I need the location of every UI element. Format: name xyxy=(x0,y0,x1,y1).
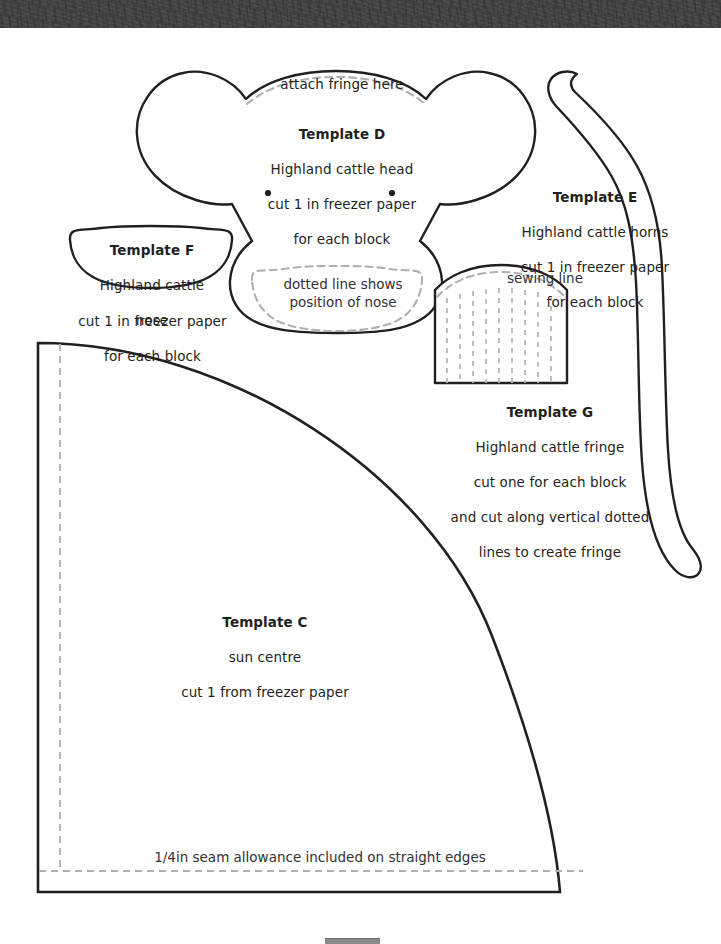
template-f-title: Template F xyxy=(72,242,232,260)
template-f-outside-line-2: for each block xyxy=(55,348,250,366)
template-sheet: attach fringe here Template D Highland c… xyxy=(0,0,721,944)
template-g-line-2: cut one for each block xyxy=(440,474,660,492)
template-e-caption: Template E Highland cattle horns cut 1 i… xyxy=(500,171,690,329)
template-e-line-3: for each block xyxy=(500,294,690,312)
sewing-line-label: sewing line xyxy=(470,270,620,288)
nose-position-note: dotted line shows position of nose xyxy=(258,276,428,311)
template-e-title: Template E xyxy=(500,189,690,207)
template-d-line-2: cut 1 in freezer paper xyxy=(228,196,456,214)
page-footer-bar xyxy=(325,938,380,944)
template-f-outside-line-1: cut 1 in freezer paper xyxy=(55,313,250,331)
template-c-line-2: cut 1 from freezer paper xyxy=(140,684,390,702)
template-g-line-1: Highland cattle fringe xyxy=(440,439,660,457)
template-f-outside-caption: cut 1 in freezer paper for each block xyxy=(55,295,250,383)
template-g-line-4: lines to create fringe xyxy=(440,544,660,562)
attach-fringe-label: attach fringe here xyxy=(232,76,452,94)
template-d-title: Template D xyxy=(228,126,456,144)
template-g-line-3: and cut along vertical dotted xyxy=(440,509,660,527)
template-c-title: Template C xyxy=(140,614,390,632)
template-g-caption: Template G Highland cattle fringe cut on… xyxy=(440,386,660,579)
seam-allowance-note: 1/4in seam allowance included on straigh… xyxy=(80,849,560,867)
template-e-line-1: Highland cattle horns xyxy=(500,224,690,242)
template-c-caption: Template C sun centre cut 1 from freezer… xyxy=(140,596,390,719)
template-g-title: Template G xyxy=(440,404,660,422)
template-d-caption: Template D Highland cattle head cut 1 in… xyxy=(228,108,456,266)
template-d-line-3: for each block xyxy=(228,231,456,249)
template-d-line-1: Highland cattle head xyxy=(228,161,456,179)
template-f-line-1: Highland cattle xyxy=(72,277,232,295)
template-c-line-1: sun centre xyxy=(140,649,390,667)
